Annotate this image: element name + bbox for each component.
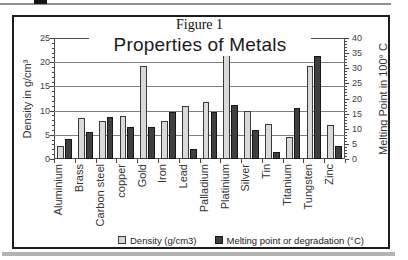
right-axis-tick [345,156,347,157]
right-axis-tick [345,41,347,42]
right-axis-tick [345,138,347,139]
right-axis-tick [345,135,347,136]
bar-density-Aluminium [57,146,64,159]
x-label-Silver: Silver [239,164,251,238]
left-axis-tick [50,135,54,136]
x-axis-tick [220,159,221,163]
bar-density-Iron [161,121,168,159]
x-label-Brass: Brass [73,164,85,238]
right-axis-tick [345,74,347,75]
right-axis-tick [345,59,347,60]
left-axis-tick [52,106,54,107]
right-axis-tick [345,47,347,48]
bar-melting-Gold [148,127,155,159]
left-axis-tick [52,67,54,68]
right-axis-tick [345,89,347,90]
bottom-horizontal-rule [2,252,395,256]
right-axis-tick [345,56,347,57]
bar-melting-Carbon steel [107,117,114,159]
right-tick-label: 15 [352,109,372,119]
right-tick-label: 35 [352,48,372,58]
x-axis-tick [283,159,284,163]
left-axis-tick [52,149,54,150]
right-tick-label: 30 [352,63,372,73]
right-tick-label: 10 [352,124,372,134]
bar-density-Tungsten [307,66,314,159]
right-axis-title: Melting Point in 100° C [376,32,390,167]
left-axis-tick [52,57,54,58]
left-axis-tick [52,53,54,54]
x-axis-tick [324,159,325,163]
bar-melting-Brass [86,132,93,159]
x-label-Palladium: Palladium [198,164,210,238]
left-axis-tick [52,91,54,92]
bar-density-copper [120,116,127,159]
x-axis-tick [303,159,304,163]
gridline [54,62,345,63]
left-axis-tick [52,130,54,131]
right-axis-tick [345,83,349,84]
x-label-Aluminium: Aluminium [52,164,64,238]
bar-melting-Tin [273,152,280,159]
right-axis-tick [345,129,349,130]
right-axis-tick [345,102,347,103]
bar-melting-Tungsten [314,56,321,159]
right-axis-tick [345,53,349,54]
x-axis-tick [241,159,242,163]
left-axis-tick [52,43,54,44]
figure-box: Figure 1 05101520250510152025303540Alumi… [12,15,390,249]
x-axis-tick [262,159,263,163]
right-axis-tick [345,147,347,148]
right-axis-tick [345,68,349,69]
left-axis-tick [52,120,54,121]
right-axis-tick [345,153,347,154]
right-axis-tick [345,141,347,142]
melting-swatch-icon [215,236,223,244]
right-axis-tick [345,105,347,106]
right-axis-tick [345,50,347,51]
bar-density-Tin [265,124,272,159]
bar-density-Carbon steel [99,121,106,159]
right-axis-tick [345,38,349,39]
x-label-Gold: Gold [136,164,148,238]
right-tick-label: 25 [352,78,372,88]
bar-density-Palladium [203,102,210,159]
left-axis-tick [52,154,54,155]
page: Figure 1 05101520250510152025303540Alumi… [0,0,408,260]
legend-item-density: Density (g/cm3) [118,235,197,246]
bar-density-Brass [78,118,85,159]
x-label-Tungsten: Tungsten [302,164,314,238]
chart-title: Properties of Metals [89,33,311,56]
right-axis-tick [345,126,347,127]
left-axis-tick [50,111,54,112]
x-axis-tick [54,159,55,163]
right-axis-tick [345,62,347,63]
bar-melting-Lead [190,149,197,159]
x-axis-tick [200,159,201,163]
cropped-text-fragment [34,0,47,4]
x-label-Platinium: Platinium [219,164,231,238]
legend-item-melting: Melting point or degradation (°C) [215,235,364,246]
right-axis-tick [345,150,347,151]
gridline [54,135,345,136]
right-axis-tick [345,123,347,124]
right-axis-tick [345,144,349,145]
x-axis-tick [75,159,76,163]
bar-density-Zinc [327,125,334,159]
right-axis-tick [345,95,347,96]
right-axis-tick [345,108,347,109]
bar-melting-Iron [169,112,176,159]
gridline [54,111,345,112]
bar-melting-Silver [252,130,259,159]
x-axis-tick [179,159,180,163]
top-horizontal-rule [0,3,391,5]
left-axis-tick [52,96,54,97]
gridline [54,86,345,87]
x-axis-tick [96,159,97,163]
left-axis-tick [52,82,54,83]
x-label-Carbon steel: Carbon steel [94,164,106,238]
left-axis-tick [50,86,54,87]
bar-density-Platinium [223,55,230,159]
right-axis-tick [345,44,347,45]
right-axis-tick [345,114,349,115]
